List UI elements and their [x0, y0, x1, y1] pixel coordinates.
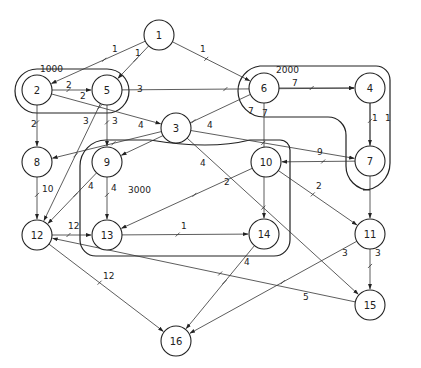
edge-weight: 2: [316, 181, 322, 191]
node-1: 1: [144, 20, 174, 50]
cluster-label: 3000: [128, 185, 151, 195]
edge-weight: 2: [224, 177, 230, 187]
node-16: 16: [161, 326, 191, 356]
node-12: 12: [22, 220, 52, 250]
edge-weight: 7: [292, 78, 298, 88]
edge-weight: 4: [200, 158, 206, 168]
edge-4-to-7: 1: [368, 103, 378, 145]
edge-weight: 2: [31, 119, 37, 129]
edge-weight: 7: [262, 108, 268, 118]
node-label: 16: [170, 336, 183, 347]
edge-weight: 2: [80, 91, 86, 101]
node-label: 10: [260, 157, 273, 168]
node-label: 2: [34, 85, 40, 96]
edge-7-to-10: 9: [282, 147, 355, 163]
node-label: 15: [364, 300, 377, 311]
edge-weight: 5: [303, 292, 309, 302]
node-15: 15: [355, 290, 385, 320]
node-label: 4: [367, 83, 373, 94]
edge-8-to-12: 10: [35, 177, 54, 219]
edge-weight: 1: [372, 113, 378, 123]
node-7: 7: [355, 146, 385, 176]
graph-diagram: 1000 2000 3000 1112223337774441191044221…: [0, 0, 421, 368]
cluster-label: 1000: [40, 64, 63, 74]
edge-1-to-5: 1: [118, 46, 149, 78]
edge-1-to-6: 1: [172, 42, 249, 81]
node-label: 14: [258, 229, 271, 240]
edge-weight: 2: [66, 80, 72, 90]
edge-12-to-16: 12: [49, 244, 163, 331]
edge-weight: 3: [342, 248, 348, 258]
edge-10-to-13: 2: [122, 168, 253, 228]
edge-2-to-8: 2: [31, 105, 39, 146]
edge-6-to-4: 7: [279, 78, 354, 90]
edge-weight: 3: [137, 84, 143, 94]
edge-weight: 9: [317, 147, 323, 157]
node-label: 11: [364, 229, 377, 240]
edge-weight: 4: [111, 183, 117, 193]
edge-12-to-13: 12: [52, 221, 91, 237]
node-3: 3: [161, 113, 191, 143]
edge-weight: 12: [103, 271, 114, 281]
cluster-label: 2000: [276, 65, 299, 75]
edge-weight: 4: [207, 120, 213, 130]
node-label: 12: [31, 230, 44, 241]
edge-9-to-13: 4: [105, 177, 117, 219]
edge-11-to-15: 3: [368, 248, 381, 289]
edge-weight: 10: [42, 184, 54, 194]
node-label: 6: [261, 83, 267, 94]
edge-weight: 4: [244, 257, 250, 267]
node-10: 10: [251, 147, 281, 177]
node-9: 9: [92, 147, 122, 177]
node-4: 4: [355, 73, 385, 103]
node-6: 6: [249, 73, 279, 103]
node-label: 3: [173, 123, 179, 134]
node-label: 13: [101, 230, 114, 241]
nodes: 12564389107121314111516: [22, 20, 385, 356]
node-14: 14: [249, 219, 279, 249]
edge-weight: 1: [112, 44, 118, 54]
edge-weight: 3: [375, 248, 381, 258]
node-label: 7: [367, 156, 373, 167]
node-11: 11: [355, 219, 385, 249]
node-8: 8: [22, 147, 52, 177]
edge-weight: 3: [83, 116, 89, 126]
node-label: 8: [34, 157, 40, 168]
edge-weight: 3: [112, 116, 118, 126]
node-2: 2: [22, 75, 52, 105]
node-label: 1: [156, 30, 162, 41]
node-13: 13: [92, 220, 122, 250]
node-label: 9: [104, 157, 110, 168]
edge-weight: 1: [181, 221, 187, 231]
edge-11-to-16: 3: [190, 241, 357, 333]
edge-13-to-14: 1: [122, 221, 248, 237]
edge-15-to-12: 5: [53, 238, 356, 302]
edge-weight: 1: [135, 48, 141, 58]
edge-weight: 4: [88, 181, 94, 191]
edge-9-to-12: 4: [48, 173, 97, 224]
edge-weight: 12: [68, 221, 79, 231]
edge-weight: 4: [138, 120, 144, 130]
edges: 111222333777444119104422121433125: [31, 41, 391, 333]
edge-weight: 1: [200, 44, 206, 54]
edge-weight: 7: [248, 106, 254, 116]
node-label: 5: [104, 85, 110, 96]
edge-weight: 1: [385, 113, 391, 123]
node-5: 5: [92, 75, 122, 105]
